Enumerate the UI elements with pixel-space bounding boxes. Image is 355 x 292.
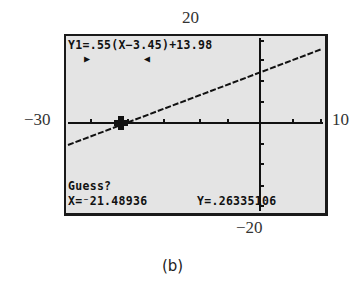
ymin-label: −20 (236, 218, 263, 238)
equation-text: Y1=.55(X−3.45)+13.98 (68, 38, 212, 52)
xmax-label: 10 (332, 110, 349, 130)
calculator-screen: Y1=.55(X−3.45)+13.98 ▶ ◀ Guess? X=⁻21.48… (64, 34, 328, 216)
ymax-label: 20 (182, 8, 199, 28)
figure-caption: (b) (162, 257, 183, 275)
right-bound-marker-icon: ◀ (144, 53, 150, 64)
xmin-label: −30 (24, 110, 51, 130)
x-readout: X=⁻21.48936 (68, 194, 147, 208)
y-readout: Y=.26335106 (197, 194, 276, 208)
left-bound-marker-icon: ▶ (84, 53, 90, 64)
graph-line-y1 (68, 49, 322, 145)
trace-cursor (114, 116, 128, 130)
guess-prompt: Guess? (68, 179, 111, 193)
